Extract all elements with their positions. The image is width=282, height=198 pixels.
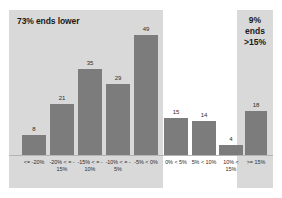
bar-value-label: 49: [128, 26, 164, 32]
bar: [219, 145, 243, 155]
bar: [245, 111, 267, 155]
bar: [22, 135, 46, 155]
bar: [50, 104, 74, 155]
x-tick-label-line: -5% < 0%: [129, 159, 163, 166]
x-tick-label-line: >= 15%: [240, 159, 272, 166]
bar: [134, 35, 158, 155]
x-tick-label-line: 15%: [214, 166, 248, 173]
bar-value-label: 35: [72, 60, 108, 66]
bar-value-label: 4: [213, 136, 249, 142]
x-tick-label: >= 15%: [240, 159, 272, 166]
bar: [78, 69, 102, 155]
bar-value-label: 29: [100, 75, 136, 81]
bar-value-label: 21: [44, 95, 80, 101]
plot-area: 8<= -20%21-20% < = -15%35-15% < = -10%29…: [0, 0, 282, 198]
bar-value-label: 8: [16, 126, 52, 132]
x-tick-label-line: 5%: [101, 166, 135, 173]
bar-value-label: 18: [239, 102, 273, 108]
axis-baseline: [9, 155, 273, 156]
bar-value-label: 14: [186, 112, 222, 118]
histogram-figure: 73% ends lower 9% ends >15% 8<= -20%21-2…: [0, 0, 282, 198]
bar: [164, 118, 188, 155]
bar: [106, 84, 130, 155]
x-tick-label: -5% < 0%: [129, 159, 163, 166]
